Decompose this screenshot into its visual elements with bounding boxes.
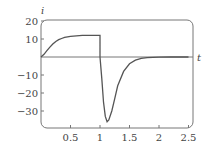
y-tick-label: 20: [25, 16, 38, 27]
y-tick-label: −30: [17, 106, 38, 117]
y-tick-label: −20: [17, 88, 38, 99]
x-tick-label: 1.5: [122, 132, 138, 143]
chart: 0.511.522.5 2010−10−20−30 t i: [0, 0, 210, 147]
x-tick-label: 2.5: [181, 132, 197, 143]
y-tick-label: 10: [25, 34, 38, 45]
series-line: [41, 35, 189, 121]
y-axis-label: i: [41, 5, 44, 16]
x-tick-label: 2: [156, 132, 162, 143]
plot-frame: [41, 20, 193, 128]
y-tick-label: −10: [17, 70, 38, 81]
x-tick-label: 1: [97, 132, 103, 143]
x-tick-label: 0.5: [63, 132, 79, 143]
x-axis-label: t: [197, 52, 202, 63]
